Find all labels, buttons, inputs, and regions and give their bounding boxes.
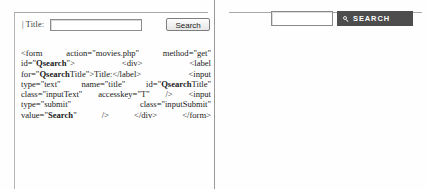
code-line: value="Search"/></div></form> — [21, 110, 211, 120]
code-line: id="Qsearch"><div><label — [21, 58, 211, 68]
title-field-label: | Title: — [22, 20, 44, 29]
scan-frame-left-line — [14, 12, 15, 189]
screenshot-root: | Title: Search <formaction="movies.php"… — [0, 0, 428, 189]
magnifier-icon — [343, 16, 349, 22]
left-source-code-block: <formaction="movies.php"method="get" id=… — [21, 48, 211, 120]
code-line: type="submit"class="inputSubmit" — [21, 99, 211, 109]
code-line: <formaction="movies.php"method="get" — [21, 48, 211, 58]
code-line: for="QsearchTitle">Title:</label><input — [21, 69, 211, 79]
right-example-panel: SEARCH <formname="searchform"action= "ht… — [214, 0, 428, 189]
code-line: type="text"name="title"id="QsearchTitle" — [21, 79, 211, 89]
search-submit-button[interactable]: Search — [166, 18, 210, 31]
code-line: class="inputText"accesskey="T"/><input — [21, 89, 211, 99]
search-submit-button[interactable]: SEARCH — [337, 11, 413, 26]
left-search-widget: | Title: Search — [22, 18, 210, 31]
scan-frame-top-line — [14, 12, 208, 13]
left-example-panel: | Title: Search <formaction="movies.php"… — [0, 0, 214, 189]
search-submit-button-label: SEARCH — [353, 11, 390, 26]
title-text-input[interactable] — [50, 19, 142, 31]
right-search-widget: SEARCH — [271, 11, 413, 26]
search-text-input[interactable] — [271, 11, 333, 26]
